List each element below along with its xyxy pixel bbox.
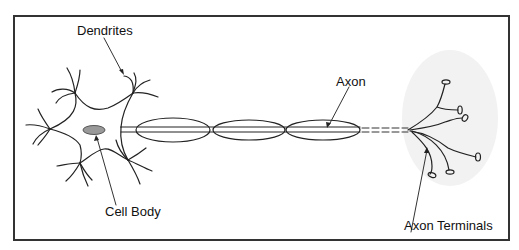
nucleus <box>83 126 105 135</box>
label-dendrites: Dendrites <box>77 23 133 38</box>
terminal-glow <box>402 50 498 186</box>
label-axon: Axon <box>336 74 366 89</box>
neuron-diagram: Dendrites Axon Cell Body Axon Terminals <box>0 0 519 250</box>
label-cell-body: Cell Body <box>105 204 161 219</box>
label-axon-terminals: Axon Terminals <box>404 218 493 233</box>
